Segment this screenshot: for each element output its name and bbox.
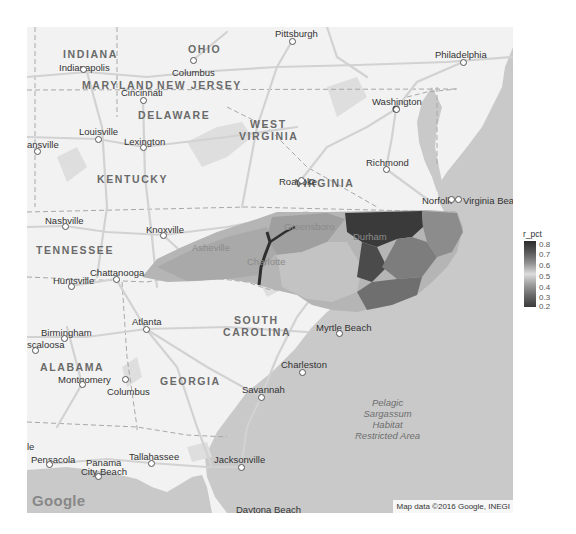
ocean-label-line: Habitat: [355, 419, 420, 430]
city-marker-icon: [448, 196, 455, 203]
city-label[interactable]: City Beach: [81, 467, 127, 477]
city-marker-icon: [95, 473, 102, 480]
city-marker-icon: [393, 106, 400, 113]
legend-tick: 0.7: [539, 251, 550, 259]
city-marker-icon: [258, 394, 265, 401]
city-label[interactable]: ansville: [27, 140, 59, 150]
state-label: SOUTH: [234, 315, 279, 326]
city-label[interactable]: Pittsburgh: [275, 29, 318, 39]
ocean-label-line: Sargassum: [355, 408, 420, 419]
city-label[interactable]: Columbus: [107, 387, 150, 397]
ocean-restricted-area-label: Pelagic Sargassum Habitat Restricted Are…: [355, 397, 420, 441]
legend-tick: 0.8: [539, 241, 550, 249]
city-label[interactable]: Durham: [353, 232, 387, 242]
city-label[interactable]: le: [27, 442, 34, 452]
city-marker-icon: [122, 376, 129, 383]
legend-tick: 0.5: [539, 273, 550, 281]
city-marker-icon: [80, 66, 87, 73]
city-label[interactable]: Savannah: [242, 385, 285, 395]
state-label: OHIO: [188, 44, 221, 55]
city-marker-icon: [460, 59, 467, 66]
city-label[interactable]: Columbus: [172, 68, 215, 78]
city-marker-icon: [68, 283, 75, 290]
legend-tick: 0.3: [539, 294, 550, 302]
city-label[interactable]: Pensacola: [31, 455, 75, 465]
state-label: VIRGINIA: [239, 131, 298, 142]
legend-tick: 0.6: [539, 262, 550, 270]
city-marker-icon: [455, 196, 462, 203]
city-marker-icon: [140, 97, 147, 104]
city-marker-icon: [299, 369, 306, 376]
state-label: TENNESSEE: [36, 245, 114, 256]
city-label[interactable]: Asheville: [192, 243, 230, 253]
city-marker-icon: [79, 381, 86, 388]
ocean-label-line: Pelagic: [355, 397, 420, 408]
city-marker-icon: [289, 38, 296, 45]
city-marker-icon: [62, 223, 69, 230]
city-label[interactable]: Charleston: [281, 360, 327, 370]
city-marker-icon: [336, 330, 343, 337]
state-label: WEST: [250, 119, 287, 130]
city-marker-icon: [160, 232, 167, 239]
legend-title: r_pct: [523, 229, 542, 239]
city-marker-icon: [238, 464, 245, 471]
state-label: ALABAMA: [40, 362, 104, 373]
state-label: GEORGIA: [160, 376, 221, 387]
city-label[interactable]: Virginia Beach: [463, 196, 513, 206]
city-marker-icon: [140, 144, 147, 151]
city-marker-icon: [148, 460, 155, 467]
city-marker-icon: [143, 326, 150, 333]
state-label: KENTUCKY: [97, 174, 168, 185]
city-label[interactable]: Charlotte: [247, 257, 286, 267]
google-logo[interactable]: Google: [32, 492, 85, 509]
city-marker-icon: [113, 276, 120, 283]
state-label: DELAWARE: [138, 110, 210, 121]
city-marker-icon: [46, 461, 53, 468]
city-marker-icon: [32, 347, 39, 354]
city-label[interactable]: Greensboro: [284, 222, 334, 232]
state-label: NEW JERSEY: [157, 80, 242, 91]
legend-tick: 0.2: [539, 303, 550, 311]
city-marker-icon: [190, 57, 197, 64]
city-marker-icon: [298, 177, 305, 184]
legend-tick: 0.4: [539, 284, 550, 292]
city-marker-icon: [383, 166, 390, 173]
city-label[interactable]: Tallahassee: [129, 452, 179, 462]
city-marker-icon: [95, 136, 102, 143]
city-label[interactable]: Jacksonville: [214, 455, 265, 465]
map-panel[interactable]: INDIANAOHIOWESTVIRGINIAMARYLANDNEW JERSE…: [27, 27, 513, 513]
city-marker-icon: [34, 148, 41, 155]
city-label[interactable]: Daytona Beach: [236, 505, 301, 513]
state-label: CAROLINA: [223, 327, 291, 338]
state-label: INDIANA: [63, 49, 118, 60]
map-attribution[interactable]: Map data ©2016 Google, INEGI: [393, 500, 513, 513]
city-label[interactable]: Philadelphia: [435, 50, 487, 60]
city-label[interactable]: Myrtle Beach: [316, 323, 371, 333]
ocean-label-line: Restricted Area: [355, 430, 420, 441]
legend-colorbar: [524, 241, 536, 307]
